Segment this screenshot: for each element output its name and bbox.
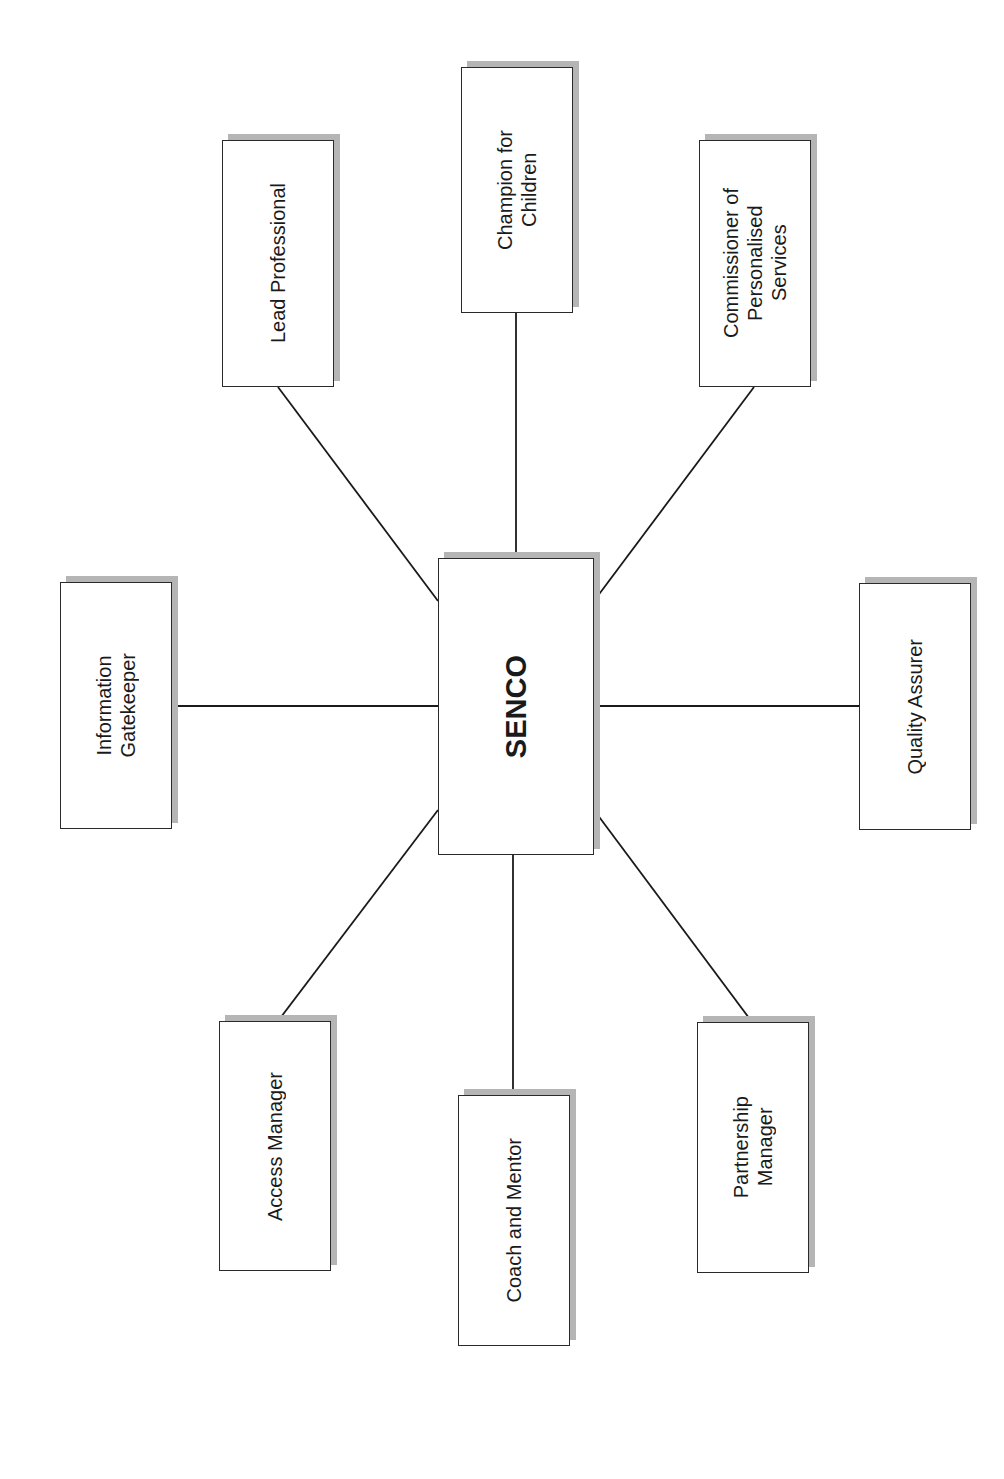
node-information-gatekeeper-label: Information Gatekeeper: [92, 653, 140, 758]
node-quality-assurer-label: Quality Assurer: [903, 639, 927, 775]
node-commissioner-of-personalised-services-label: Commissioner of Personalised Services: [719, 188, 791, 338]
node-champion-for-children: Champion for Children: [461, 67, 573, 313]
node-commissioner-of-personalised-services: Commissioner of Personalised Services: [699, 140, 811, 387]
node-partnership-manager-label: Partnership Manager: [729, 1096, 777, 1198]
node-champion-for-children-label: Champion for Children: [493, 130, 541, 250]
senco-node-label: SENCO: [500, 655, 532, 758]
node-lead-professional-label: Lead Professional: [266, 183, 290, 343]
node-information-gatekeeper: Information Gatekeeper: [60, 582, 172, 829]
connector-senco-to-access-manager: [278, 810, 438, 1021]
node-lead-professional: Lead Professional: [222, 140, 334, 387]
connector-senco-to-partnership-manager: [594, 810, 752, 1022]
senco-node: SENCO: [438, 558, 594, 855]
node-coach-and-mentor-label: Coach and Mentor: [502, 1138, 526, 1303]
connector-senco-to-commissioner-of-personalised-services: [594, 387, 754, 601]
node-access-manager: Access Manager: [219, 1021, 331, 1271]
senco-role-diagram: SENCOChampion for ChildrenLead Professio…: [0, 0, 1004, 1479]
node-access-manager-label: Access Manager: [263, 1072, 287, 1221]
connector-senco-to-lead-professional: [278, 387, 438, 601]
node-quality-assurer: Quality Assurer: [859, 583, 971, 830]
node-coach-and-mentor: Coach and Mentor: [458, 1095, 570, 1346]
node-partnership-manager: Partnership Manager: [697, 1022, 809, 1273]
